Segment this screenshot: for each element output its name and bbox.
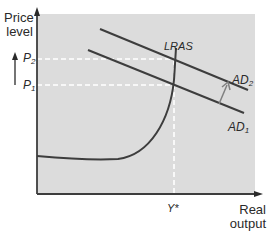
x-axis-label-line2: output bbox=[226, 217, 266, 231]
x-axis-label: Real output bbox=[226, 203, 266, 231]
y-axis-label-line1: Price bbox=[4, 11, 33, 25]
p2-label: P2 bbox=[23, 51, 35, 69]
lras-label: LRAS bbox=[164, 39, 193, 53]
y-axis-label-line2: level bbox=[4, 25, 33, 39]
ad1-label: AD1 bbox=[228, 120, 249, 138]
y-star-label: Y* bbox=[167, 201, 179, 215]
y-axis-arrow-icon bbox=[34, 7, 40, 16]
x-axis-arrow-icon bbox=[254, 191, 263, 197]
x-axis-label-line1: Real bbox=[226, 203, 266, 217]
y-axis-label: Price level bbox=[4, 11, 33, 39]
p1-label: P1 bbox=[23, 78, 35, 96]
ad2-label: AD2 bbox=[232, 73, 253, 91]
price-rise-arrow-head-icon bbox=[12, 52, 18, 60]
diagram-canvas bbox=[0, 0, 270, 231]
